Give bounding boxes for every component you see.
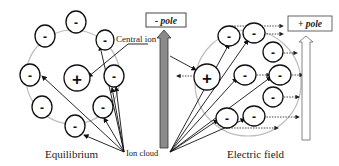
electric-field-label: Electric field	[227, 148, 285, 160]
svg-text:+: +	[72, 70, 82, 89]
svg-text:-: -	[278, 69, 282, 83]
ion-cloud-pointers	[42, 46, 124, 152]
svg-text:-: -	[43, 30, 47, 44]
svg-text:-: -	[271, 91, 275, 105]
negative-ion: -	[93, 96, 113, 118]
diagram-canvas: - - - - - - - - + Central ion Equilibriu…	[0, 0, 339, 166]
negative-ion: -	[234, 65, 256, 85]
negative-ion: -	[65, 115, 85, 137]
svg-text:-: -	[73, 120, 77, 134]
svg-text:-: -	[243, 69, 247, 83]
svg-text:-: -	[74, 16, 78, 30]
svg-text:-: -	[225, 112, 229, 126]
ion-cloud-label: Ion cloud	[126, 148, 159, 158]
negative-ion: -	[32, 96, 52, 118]
negative-pole-arrow	[157, 30, 171, 148]
svg-text:-: -	[252, 110, 256, 124]
svg-text:-: -	[28, 69, 32, 83]
central-ion-pointer-right	[170, 56, 196, 70]
negative-ion: -	[216, 108, 238, 128]
negative-ion: -	[96, 30, 114, 50]
negative-ion: -	[269, 65, 291, 85]
svg-text:+: +	[202, 69, 212, 88]
negative-ion: -	[20, 64, 40, 86]
positive-pole-label: + pole	[298, 19, 323, 29]
negative-ion: -	[263, 42, 283, 62]
svg-text:-: -	[252, 27, 256, 41]
negative-ion: -	[104, 65, 124, 87]
svg-text:-: -	[271, 46, 275, 60]
negative-ion: -	[243, 23, 265, 43]
negative-pole-label: - pole	[155, 16, 178, 26]
central-ion-label: Central ion	[116, 34, 157, 44]
svg-text:-: -	[103, 34, 107, 48]
svg-text:-: -	[227, 30, 231, 44]
central-positive-ion: +	[64, 65, 90, 91]
positive-pole: + pole	[288, 16, 332, 140]
svg-text:-: -	[112, 70, 116, 84]
svg-text:-: -	[101, 101, 105, 115]
negative-ion: -	[263, 87, 283, 107]
negative-ion: -	[35, 25, 55, 47]
ion-cloud-diagram: - - - - - - - - + Central ion Equilibriu…	[0, 0, 339, 166]
negative-ion: -	[243, 106, 265, 126]
negative-ion: -	[218, 26, 240, 46]
central-positive-ion: +	[194, 64, 220, 90]
electric-field-panel: - - - - - - - - + Electric field	[170, 23, 303, 160]
equilibrium-panel: - - - - - - - - + Central ion Equilibriu…	[20, 11, 157, 160]
negative-ion: -	[66, 11, 86, 33]
equilibrium-label: Equilibrium	[45, 148, 99, 160]
svg-text:-: -	[40, 101, 44, 115]
